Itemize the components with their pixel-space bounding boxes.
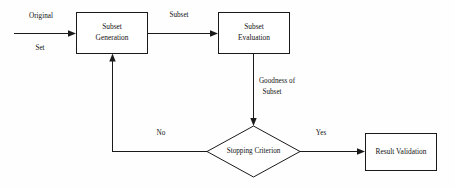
edge-no-arrowhead [109, 54, 115, 62]
edge-subset-arrowhead [210, 30, 218, 36]
flowchart-canvas: Original Set Subset Generation Subset Su… [0, 0, 455, 187]
edge-label-no: No [157, 129, 166, 137]
node-stopping-criterion-label: Stopping Criterion [227, 147, 281, 155]
node-subset-evaluation-label-line2: Evaluation [238, 33, 270, 42]
flowchart-svg: Original Set Subset Generation Subset Su… [0, 0, 455, 187]
edge-original-set-arrowhead [68, 30, 76, 36]
node-result-validation[interactable]: Result Validation [366, 134, 437, 171]
node-subset-generation-label-line1: Subset [102, 22, 123, 31]
edge-label-subset: Subset [169, 11, 188, 19]
edge-no-path [113, 60, 208, 152]
edge-goodness-arrowhead [250, 118, 256, 126]
edge-no-feedback [109, 54, 207, 152]
edge-original-set [14, 30, 76, 36]
edge-yes-arrowhead [357, 148, 365, 154]
edge-label-original: Original [29, 12, 53, 20]
node-subset-evaluation[interactable]: Subset Evaluation [219, 13, 290, 54]
edge-label-set: Set [35, 44, 44, 52]
edge-label-goodness-line1: Goodness of [259, 77, 296, 85]
edge-label-yes: Yes [316, 129, 327, 137]
node-result-validation-label: Result Validation [376, 147, 427, 156]
edge-goodness-of-subset [250, 54, 256, 127]
edge-subset [148, 30, 219, 36]
node-subset-generation-label-line2: Generation [96, 33, 129, 42]
edge-yes [300, 148, 365, 154]
node-stopping-criterion[interactable]: Stopping Criterion [207, 126, 300, 177]
node-subset-evaluation-label-line1: Subset [244, 22, 265, 31]
node-subset-generation[interactable]: Subset Generation [77, 13, 148, 54]
edge-label-goodness-line2: Subset [262, 88, 281, 96]
